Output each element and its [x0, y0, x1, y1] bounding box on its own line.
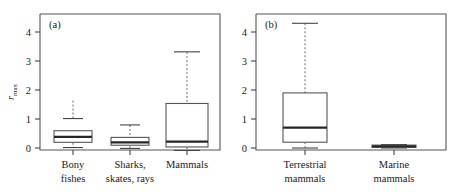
boxplot-figure: 0 1 2 3 4 rmax (a) — [0, 0, 456, 192]
xlabel-sharks-line1: Sharks, — [114, 159, 145, 170]
panel-a-xlabels: Bony fishes Sharks, skates, rays Mammals — [61, 159, 208, 184]
box-mammals — [166, 52, 208, 151]
panel-a-label: (a) — [49, 19, 61, 31]
panel-a-ytick-4: 4 — [26, 27, 32, 38]
xlabel-marine-line1: Marine — [379, 159, 410, 170]
panel-a-svg: 0 1 2 3 4 rmax (a) — [0, 0, 228, 192]
panel-b-ytick-3: 3 — [242, 56, 247, 67]
y-axis-title: rmax — [5, 83, 19, 100]
panel-a-ytick-2: 2 — [26, 85, 31, 96]
panel-b-svg: 0 1 2 3 4 (b) — [228, 0, 456, 192]
panel-b-label: (b) — [265, 19, 278, 31]
panel-b-ytick-0: 0 — [242, 143, 247, 154]
box-marine-mammals — [372, 145, 416, 148]
box-terrestrial-mammals — [283, 23, 327, 148]
panel-b-xaxis — [305, 150, 394, 155]
panel-b-ytick-4: 4 — [242, 27, 248, 38]
xlabel-terrestrial-line2: mammals — [285, 173, 326, 184]
panel-b-ytick-1: 1 — [242, 114, 247, 125]
panel-a-ytick-3: 3 — [26, 56, 31, 67]
xlabel-bony-fishes-line2: fishes — [61, 173, 86, 184]
panel-a-ytick-0: 0 — [26, 143, 31, 154]
xlabel-sharks-line2: skates, rays — [106, 173, 154, 184]
xlabel-bony-fishes-line1: Bony — [62, 159, 86, 170]
panel-b-ytick-2: 2 — [242, 85, 247, 96]
panel-b: 0 1 2 3 4 (b) — [228, 0, 456, 192]
xlabel-mammals-line1: Mammals — [166, 159, 208, 170]
panel-a-ytick-1: 1 — [26, 114, 31, 125]
panel-a-yaxis: 0 1 2 3 4 — [26, 27, 40, 154]
xlabel-marine-line2: mammals — [374, 173, 415, 184]
panel-b-yaxis: 0 1 2 3 4 — [242, 27, 256, 154]
box-sharks-skates-rays — [111, 125, 149, 148]
box-bony-fishes — [54, 99, 92, 148]
panel-a: 0 1 2 3 4 rmax (a) — [0, 0, 228, 192]
xlabel-terrestrial-line1: Terrestrial — [284, 159, 327, 170]
y-axis-title-sub: max — [11, 83, 19, 96]
svg-text:rmax: rmax — [5, 83, 19, 100]
panel-a-xaxis — [73, 150, 187, 155]
panel-b-xlabels: Terrestrial mammals Marine mammals — [284, 159, 415, 184]
